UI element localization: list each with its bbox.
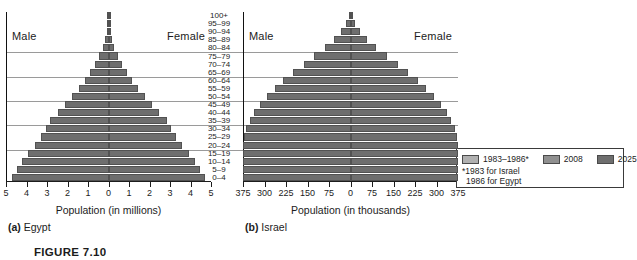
egypt-male-cell <box>6 20 109 27</box>
israel-age-row-100plus <box>243 12 458 19</box>
egypt-tick-1-6 <box>129 182 130 187</box>
egypt-bar-2025-right <box>109 101 152 108</box>
israel-bar-2025-right <box>351 166 459 173</box>
israel-tick-150-3 <box>308 182 309 187</box>
egypt-age-row-80–84 <box>6 44 211 51</box>
egypt-tick-1-4 <box>88 182 89 187</box>
israel-bar-2025-left <box>267 93 351 100</box>
israel-bar-2025-left <box>304 61 351 68</box>
israel-left-stack <box>243 101 351 108</box>
egypt-age-row-20–24 <box>6 142 211 149</box>
israel-male-cell <box>243 133 351 140</box>
israel-bar-2025-left <box>275 85 351 92</box>
egypt-bar-2025-left <box>79 85 109 92</box>
egypt-bar-2025-left <box>85 77 109 84</box>
israel-age-row-5–9 <box>243 166 458 173</box>
egypt-left-stack <box>6 69 109 76</box>
egypt-bar-2025-left <box>95 61 108 68</box>
israel-bar-2025-right <box>351 52 387 59</box>
egypt-age-row-95–99 <box>6 20 211 27</box>
egypt-bar-2025-left <box>58 109 109 116</box>
egypt-axis-title: Population (in millions) <box>6 204 211 216</box>
legend-label-2025: 2025 <box>618 154 637 164</box>
egypt-plot-area: Male Female <box>6 12 211 182</box>
egypt-left-stack <box>6 36 109 43</box>
egypt-age-row-5–9 <box>6 166 211 173</box>
egypt-bar-2025-left <box>22 158 109 165</box>
israel-male-cell <box>243 101 351 108</box>
egypt-tick-3-2 <box>47 182 48 187</box>
egypt-bar-2025-left <box>99 52 108 59</box>
israel-left-stack <box>243 20 351 27</box>
israel-age-row-95–99 <box>243 20 458 27</box>
egypt-age-row-0–4 <box>6 174 211 181</box>
egypt-x-tick-labels: 54321012345 <box>6 188 211 200</box>
egypt-left-stack <box>6 77 109 84</box>
egypt-left-stack <box>6 44 109 51</box>
israel-bar-2025-left <box>254 109 350 116</box>
egypt-bar-2025-left <box>72 93 108 100</box>
israel-male-cell <box>243 52 351 59</box>
egypt-bar-2025-left <box>28 150 108 157</box>
egypt-bar-2025-right <box>109 117 168 124</box>
israel-male-cell <box>243 61 351 68</box>
egypt-bar-2025-right <box>109 28 111 35</box>
egypt-bar-2025-right <box>109 125 171 132</box>
israel-axis-title: Population (in thousands) <box>243 204 458 216</box>
legend-footnote-line2: 1986 for Egypt <box>462 177 618 187</box>
legend-entries-row: 1983–1986* 2008 2025 <box>462 153 618 165</box>
israel-tick-label-4: 75 <box>324 188 334 198</box>
israel-age-row-30–34 <box>243 125 458 132</box>
legend-swatch-1983-1986 <box>462 155 479 164</box>
egypt-tick-label-4: 1 <box>85 188 90 198</box>
israel-left-stack <box>243 142 351 149</box>
egypt-left-stack <box>6 28 109 35</box>
egypt-bars <box>6 12 211 182</box>
egypt-age-row-75–79 <box>6 52 211 59</box>
israel-tick-375-0 <box>243 182 244 187</box>
israel-bar-2025-left <box>293 69 350 76</box>
israel-female-cell <box>351 117 459 124</box>
egypt-female-cell <box>109 166 212 173</box>
israel-female-cell <box>351 85 459 92</box>
egypt-male-cell <box>6 69 109 76</box>
legend-label-2008: 2008 <box>564 154 583 164</box>
egypt-male-cell <box>6 117 109 124</box>
israel-right-stack <box>351 101 459 108</box>
israel-tick-75-4 <box>329 182 330 187</box>
israel-right-stack <box>351 85 459 92</box>
egypt-age-row-55–59 <box>6 85 211 92</box>
israel-right-stack <box>351 77 459 84</box>
israel-right-stack <box>351 12 459 19</box>
israel-female-cell <box>351 69 459 76</box>
israel-left-stack <box>243 69 351 76</box>
israel-bar-2025-right <box>351 125 455 132</box>
israel-male-cell <box>243 85 351 92</box>
egypt-bar-2025-right <box>109 52 118 59</box>
israel-bar-2025-left <box>341 28 351 35</box>
israel-left-stack <box>243 52 351 59</box>
egypt-left-stack <box>6 20 109 27</box>
egypt-tick-label-5: 0 <box>106 188 111 198</box>
israel-bar-2025-left <box>244 133 351 140</box>
israel-right-stack <box>351 52 459 59</box>
israel-bar-2025-left <box>283 77 350 84</box>
egypt-bar-2025-right <box>109 12 111 19</box>
israel-tick-label-2: 225 <box>278 188 293 198</box>
egypt-caption-name: Egypt <box>24 221 51 233</box>
egypt-male-cell <box>6 174 109 181</box>
israel-right-stack <box>351 61 459 68</box>
egypt-left-stack <box>6 117 109 124</box>
legend: 1983–1986* 2008 2025 *1983 for Israel 19… <box>456 148 624 188</box>
israel-bar-2025-left <box>325 44 351 51</box>
israel-age-row-75–79 <box>243 52 458 59</box>
age-axis: 100+95–9990–9485–8980–8475–7970–7465–696… <box>196 12 242 182</box>
egypt-bar-2025-right <box>109 36 112 43</box>
israel-age-row-50–54 <box>243 93 458 100</box>
egypt-tick-label-9: 4 <box>188 188 193 198</box>
egypt-age-row-45–49 <box>6 101 211 108</box>
egypt-bar-2025-right <box>109 150 189 157</box>
israel-right-stack <box>351 36 459 43</box>
israel-female-cell <box>351 93 459 100</box>
israel-age-row-55–59 <box>243 85 458 92</box>
